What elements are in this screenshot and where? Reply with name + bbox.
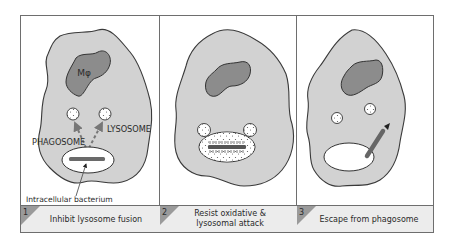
vesicle-right — [99, 108, 111, 120]
panel-caption: Escape from phagosome — [319, 215, 418, 224]
fused-lysosome-left — [198, 124, 211, 137]
macrophage-evasion-diagram: Mφ LYSOSOME PHAGOSOME Intracellular bact… — [0, 0, 453, 243]
panel-caption: Inhibit lysosome fusion — [50, 215, 142, 224]
panel-number: 1 — [23, 208, 28, 217]
bacterium-label: Intracellular bacterium — [26, 195, 113, 204]
lysosome-label: LYSOSOME — [107, 124, 151, 134]
nucleus-label: Mφ — [77, 68, 91, 78]
panel-number: 2 — [162, 208, 167, 217]
vesicle-right — [365, 104, 376, 115]
phagosome-label: PHAGOSOME — [32, 137, 85, 147]
vesicle-left — [332, 113, 343, 124]
panel-caption-line-1: Resist oxidative & — [194, 209, 266, 218]
panel-number: 3 — [299, 208, 304, 217]
resistant-bacterium — [208, 145, 246, 149]
vesicle-left — [67, 108, 79, 120]
panel-caption-line-2: lysosomal attack — [196, 219, 264, 228]
fused-lysosome-right — [244, 124, 257, 137]
intracellular-bacterium — [69, 157, 105, 161]
